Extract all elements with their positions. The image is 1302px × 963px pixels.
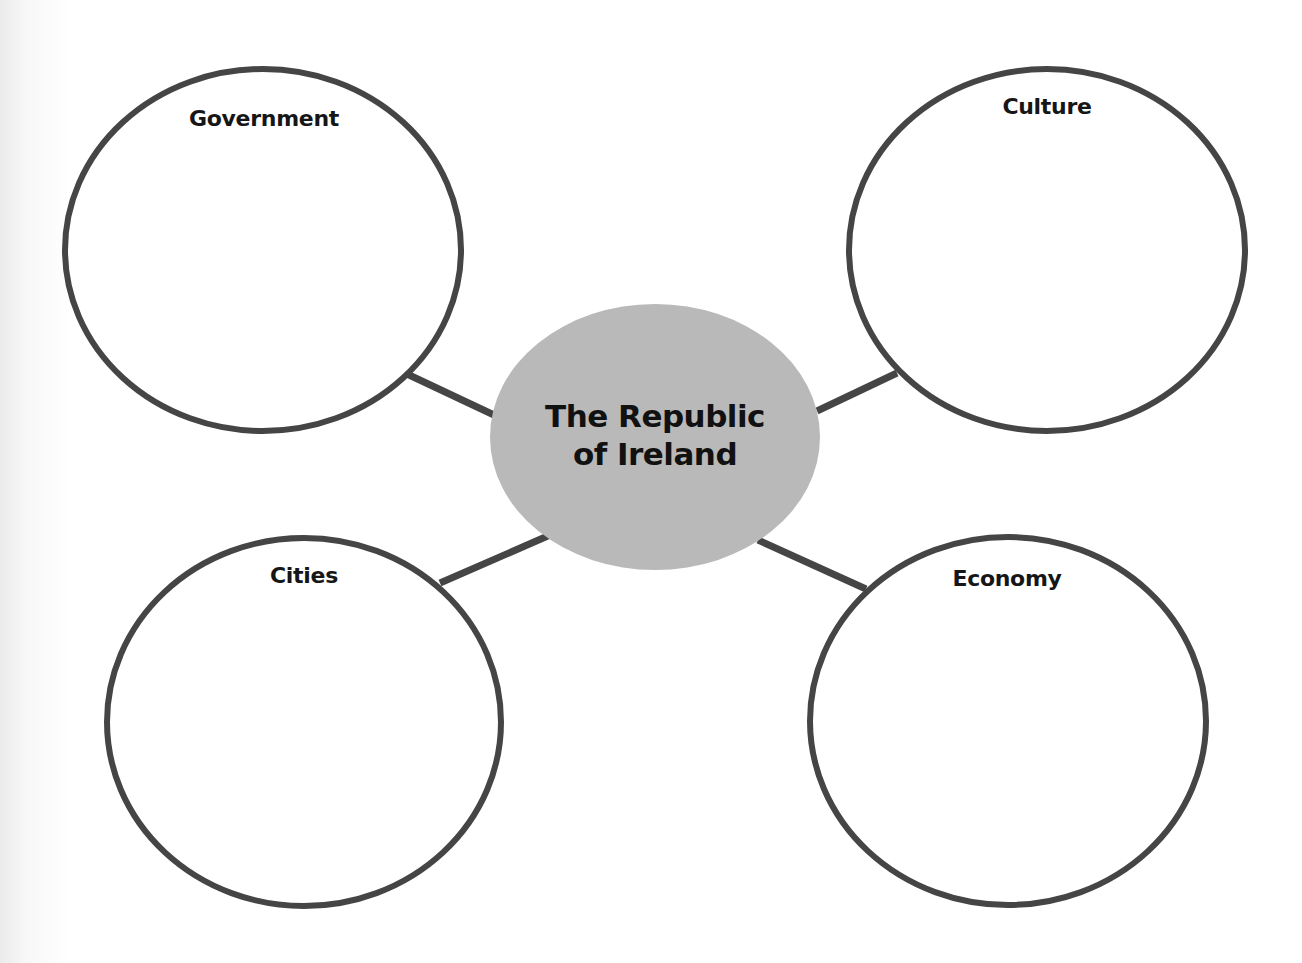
concept-web-page: Government Culture Cities Economy The Re… — [0, 0, 1302, 963]
connector-cities — [440, 535, 550, 583]
culture-circle — [849, 69, 1245, 431]
center-label: The Republic of Ireland — [545, 397, 765, 473]
government-label: Government — [189, 106, 339, 132]
connector-culture — [817, 373, 897, 411]
connector-government — [407, 374, 494, 415]
cities-circle — [107, 538, 501, 906]
economy-circle — [810, 537, 1206, 905]
center-label-line1: The Republic — [545, 397, 765, 435]
concept-web-diagram — [0, 0, 1302, 963]
cities-label: Cities — [270, 563, 338, 589]
culture-label: Culture — [1002, 94, 1091, 120]
economy-label: Economy — [952, 566, 1061, 592]
center-label-line2: of Ireland — [545, 435, 765, 473]
connector-economy — [758, 540, 866, 589]
